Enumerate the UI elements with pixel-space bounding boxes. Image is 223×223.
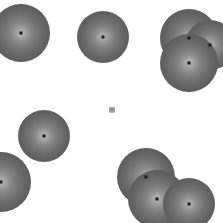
particle-center-marker-p9 bbox=[145, 176, 148, 179]
particle-center-marker-p11 bbox=[188, 203, 191, 206]
particle-p11 bbox=[163, 178, 215, 223]
particle-p1 bbox=[0, 4, 50, 62]
particle-center-marker-p7 bbox=[43, 135, 46, 138]
particle-center-marker-p5 bbox=[188, 62, 191, 65]
particle-center-marker-p3 bbox=[188, 37, 191, 40]
particle-center-marker-p4 bbox=[209, 44, 212, 47]
particle-p8 bbox=[0, 152, 31, 212]
particle-scene bbox=[0, 0, 223, 223]
particle-center-marker-p2 bbox=[102, 36, 105, 39]
particle-center-marker-p10 bbox=[156, 198, 159, 201]
particle-center-marker-p1 bbox=[20, 32, 23, 35]
particle-center-marker-p8 bbox=[0, 181, 3, 184]
particle-p6 bbox=[109, 107, 115, 113]
